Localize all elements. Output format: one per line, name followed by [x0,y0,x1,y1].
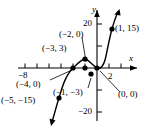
point-label-neg4-0: (−4, 0) [16,80,41,89]
data-point-neg4-0 [70,65,75,70]
leader-neg1-neg3 [88,78,91,88]
data-point-neg2-0 [82,65,87,70]
y-tick-label-20: 20 [83,19,92,28]
point-label-1-15: (1, 15) [115,24,139,33]
x-axis-label: x [129,54,133,63]
point-label-neg1-neg3: (−1, −3) [53,88,83,97]
curve-arrowhead-right [114,9,120,15]
point-label-neg3-3: (−3, 3) [42,44,67,53]
y-axis-label: y [92,5,96,14]
point-label-neg2-0: (−2, 0) [59,30,84,39]
curve-arrowhead-left [50,119,56,127]
coordinate-plane-svg [0,0,151,129]
x-axis-arrowhead [130,65,137,71]
y-tick-label-neg20: −20 [78,107,92,116]
data-point-neg1-neg3 [88,71,93,76]
point-label-neg5-neg15: (−5, −15) [1,96,35,105]
point-label-0-0: (0, 0) [118,90,138,99]
x-tick-label-2: 2 [108,72,113,81]
leader-neg4-0 [50,70,72,80]
data-point-1-15 [109,26,114,31]
graph-figure: y x −8 2 20 −20 (1, 15) (−2, 0) (−3, 3) … [0,0,151,129]
data-point-0-0 [94,65,99,70]
